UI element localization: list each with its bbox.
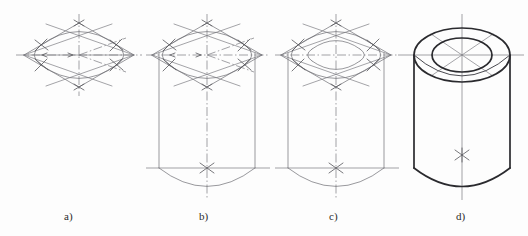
- figure-label-b: b): [199, 210, 208, 222]
- figure-label-c: c): [329, 210, 338, 222]
- figure-label-d: d): [456, 210, 465, 222]
- figure-b: [146, 14, 270, 200]
- iso-diagonal-b-3: [152, 24, 240, 55]
- iso-diagonal-c-4: [303, 24, 391, 55]
- figure-a: [16, 14, 142, 96]
- iso-diagonal-a-1: [24, 55, 112, 86]
- figure-c: [275, 14, 399, 200]
- figure-label-a: a): [64, 210, 73, 222]
- iso-diagonal-a-3: [24, 24, 112, 55]
- figure-d: [398, 14, 524, 200]
- iso-diagonal-a-4: [46, 24, 134, 55]
- iso-diagonal-c-3: [281, 24, 369, 55]
- center-cross-d: [455, 148, 469, 162]
- iso-diagonal-c-1: [281, 55, 369, 86]
- isometric-construction-drawing: [0, 0, 528, 236]
- iso-diagonal-b-1: [152, 55, 240, 86]
- drawing-sheet: a) b) c) d): [0, 0, 528, 236]
- iso-diagonal-b-4: [174, 24, 262, 55]
